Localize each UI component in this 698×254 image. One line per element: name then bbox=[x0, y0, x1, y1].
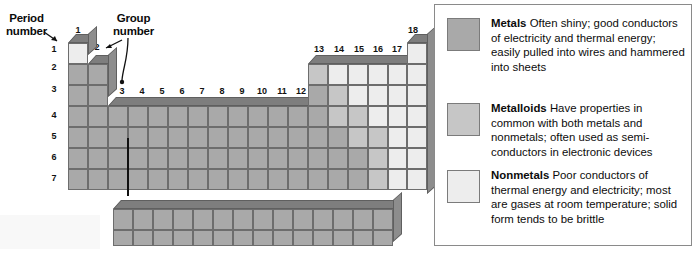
table-cell-p3-g18 bbox=[407, 85, 427, 106]
table-cell-p4-g14 bbox=[328, 106, 348, 127]
table-cell-p5-g9 bbox=[228, 127, 248, 148]
table-cell-p3-g16 bbox=[368, 85, 388, 106]
group-number-16: 16 bbox=[371, 44, 385, 54]
table-cell-p5-g15 bbox=[348, 127, 368, 148]
f-block-cell-r2-c10 bbox=[293, 230, 313, 246]
legend-item-metals: Metals Often shiny; good conductors of e… bbox=[447, 16, 687, 74]
group-number-leader-long-icon bbox=[120, 38, 132, 86]
group-number-6: 6 bbox=[176, 86, 188, 96]
table-cell-p6-g13 bbox=[308, 148, 328, 169]
table-cell-p6-g4 bbox=[128, 148, 148, 169]
table-cell-p5-g8 bbox=[208, 127, 228, 148]
period-number-3: 3 bbox=[48, 84, 60, 94]
f-block-cell-r1-c14 bbox=[373, 209, 393, 230]
f-block-cell-r2-c4 bbox=[173, 230, 193, 246]
scan-artifact bbox=[0, 215, 100, 249]
table-cell-p4-g12 bbox=[288, 106, 308, 127]
periodic-table-diagram: Period number Group number 1 2 3 4 5 6 7… bbox=[0, 0, 430, 254]
table-cell-p5-g5 bbox=[148, 127, 168, 148]
f-block-cell-r1-c7 bbox=[233, 209, 253, 230]
group-number-9: 9 bbox=[236, 86, 248, 96]
table-cell-p7-g4 bbox=[128, 169, 148, 190]
period-number-annotation-line1: Period bbox=[9, 12, 44, 24]
f-block-cell-r1-c10 bbox=[293, 209, 313, 230]
group-number-annotation: Group number bbox=[113, 12, 154, 38]
table-cell-p7-g16 bbox=[368, 169, 388, 190]
table-cell-p4-g3 bbox=[108, 106, 128, 127]
group-number-17: 17 bbox=[390, 44, 404, 54]
table-cell-p7-g18 bbox=[407, 169, 427, 190]
table-cell-p4-g8 bbox=[208, 106, 228, 127]
table-cell-p3-g15 bbox=[348, 85, 368, 106]
group-number-15: 15 bbox=[352, 44, 366, 54]
table-cell-p5-g18 bbox=[407, 127, 427, 148]
table-cell-p7-g6 bbox=[168, 169, 188, 190]
table-cell-p5-g2 bbox=[88, 127, 108, 148]
group-number-annotation-line1: Group bbox=[117, 12, 151, 24]
group-number-10: 10 bbox=[255, 86, 269, 96]
table-cell-p6-g8 bbox=[208, 148, 228, 169]
table-cell-p3-g1 bbox=[68, 85, 88, 106]
f-block-cell-r2-c5 bbox=[193, 230, 213, 246]
cell-top-face-g3-g12 bbox=[108, 97, 316, 106]
group-number-4: 4 bbox=[136, 86, 148, 96]
table-cell-p7-g10 bbox=[248, 169, 268, 190]
legend-swatch-nonmetals bbox=[447, 170, 480, 203]
table-cell-p6-g5 bbox=[148, 148, 168, 169]
table-cell-p6-g15 bbox=[348, 148, 368, 169]
table-cell-p2-g16 bbox=[368, 64, 388, 85]
legend-term-metalloids: Metalloids bbox=[491, 102, 547, 114]
table-cell-p7-g15 bbox=[348, 169, 368, 190]
table-cell-p7-g13 bbox=[308, 169, 328, 190]
table-cell-p6-g16 bbox=[368, 148, 388, 169]
period-number-4: 4 bbox=[48, 110, 60, 120]
table-cell-p7-g14 bbox=[328, 169, 348, 190]
table-cell-p6-g12 bbox=[288, 148, 308, 169]
table-cell-p2-g13 bbox=[308, 64, 328, 85]
table-cell-p6-g1 bbox=[68, 148, 88, 169]
period-number-5: 5 bbox=[48, 131, 60, 141]
f-block-cell-r1-c12 bbox=[333, 209, 353, 230]
table-cell-p5-g3 bbox=[108, 127, 128, 148]
table-cell-p7-g5 bbox=[148, 169, 168, 190]
legend-term-metals: Metals bbox=[491, 17, 526, 29]
table-cell-p5-g10 bbox=[248, 127, 268, 148]
cell-side-face-g2 bbox=[108, 47, 117, 97]
legend-swatch-metals bbox=[447, 18, 480, 51]
table-cell-p6-g17 bbox=[388, 148, 407, 169]
table-cell-p6-g9 bbox=[228, 148, 248, 169]
group-number-11: 11 bbox=[275, 86, 289, 96]
table-cell-p7-g12 bbox=[288, 169, 308, 190]
table-cell-p2-g1 bbox=[68, 64, 88, 85]
f-block-cell-r1-c4 bbox=[173, 209, 193, 230]
legend-swatch-metalloids bbox=[447, 103, 480, 136]
table-cell-p3-g17 bbox=[388, 85, 407, 106]
table-cell-p2-g18 bbox=[407, 64, 427, 85]
table-cell-p4-g13 bbox=[308, 106, 328, 127]
table-cell-p1-g18 bbox=[407, 43, 427, 64]
table-cell-p6-g18 bbox=[407, 148, 427, 169]
group-number-13: 13 bbox=[312, 44, 326, 54]
period-number-6: 6 bbox=[48, 152, 60, 162]
table-cell-p7-g11 bbox=[268, 169, 288, 190]
f-block-cell-r2-c1 bbox=[113, 230, 133, 246]
table-cell-p5-g4 bbox=[128, 127, 148, 148]
table-cell-p2-g15 bbox=[348, 64, 368, 85]
f-block-cell-r2-c7 bbox=[233, 230, 253, 246]
group-number-3: 3 bbox=[116, 86, 128, 96]
table-cell-p2-g14 bbox=[328, 64, 348, 85]
table-cell-p4-g11 bbox=[268, 106, 288, 127]
f-block-cell-r1-c5 bbox=[193, 209, 213, 230]
period-number-1: 1 bbox=[48, 44, 60, 54]
table-cell-p5-g17 bbox=[388, 127, 407, 148]
table-cell-p5-g1 bbox=[68, 127, 88, 148]
table-cell-p6-g10 bbox=[248, 148, 268, 169]
f-block-cell-r2-c14 bbox=[373, 230, 393, 246]
f-block-cell-r1-c13 bbox=[353, 209, 373, 230]
period-number-annotation-line2: number bbox=[6, 25, 47, 37]
f-block-cell-r2-c6 bbox=[213, 230, 233, 246]
table-cell-p5-g13 bbox=[308, 127, 328, 148]
period-number-2: 2 bbox=[48, 62, 60, 72]
table-cell-p4-g2 bbox=[88, 106, 108, 127]
group-number-12: 12 bbox=[294, 86, 308, 96]
